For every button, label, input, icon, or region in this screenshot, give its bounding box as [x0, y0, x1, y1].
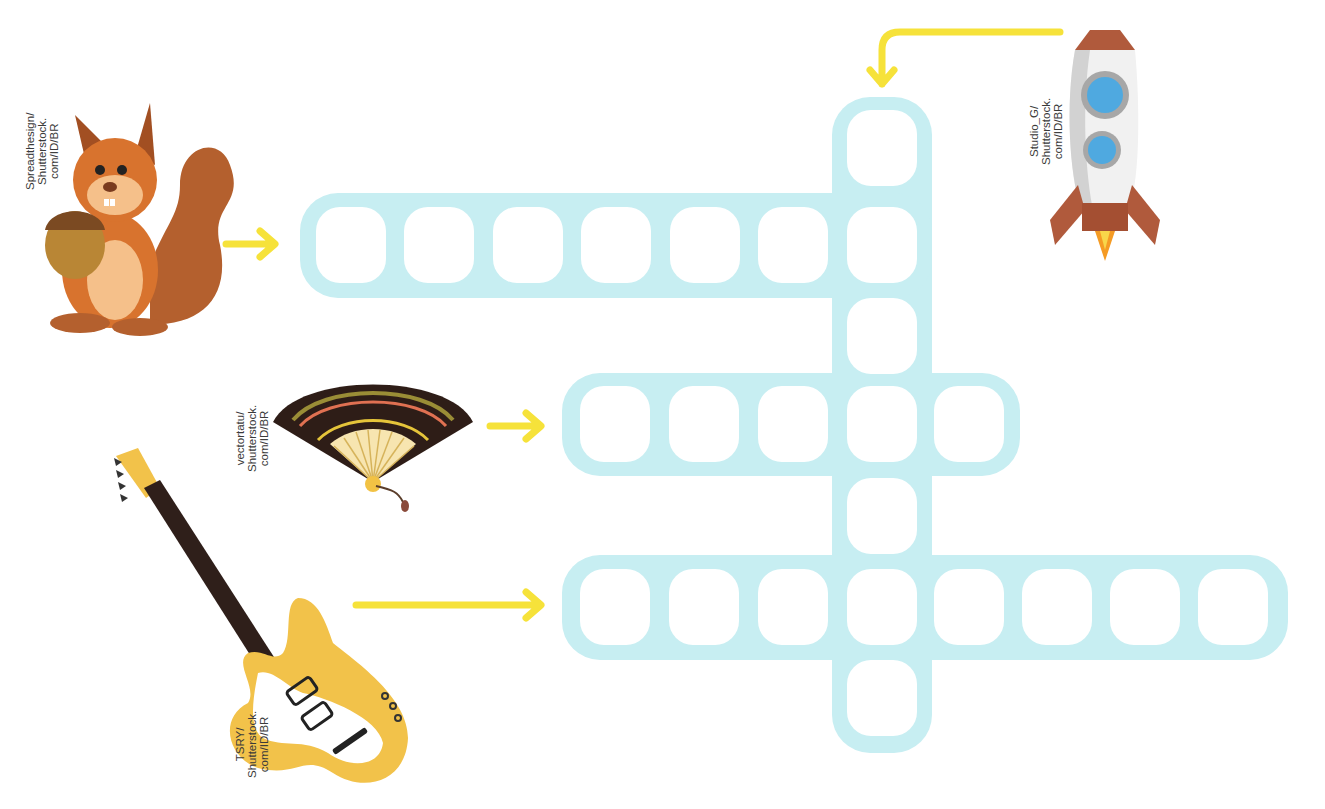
electric-guitar-icon [108, 448, 438, 808]
squirrel-icon [30, 95, 240, 340]
credit-rocket: Studio_G/ Shutterstock. com/ID/BR [1028, 98, 1064, 165]
cell-down-6[interactable] [847, 569, 917, 645]
cell-row1-4[interactable] [581, 207, 651, 283]
cell-row1-6[interactable] [758, 207, 828, 283]
credit-guitar: TSRY/ Shutterstock. com/ID/BR [234, 711, 270, 778]
cell-down-7[interactable] [847, 660, 917, 736]
cell-down-5[interactable] [847, 478, 917, 554]
cell-row1-1[interactable] [316, 207, 386, 283]
cell-row3-8[interactable] [1198, 569, 1268, 645]
cell-row2-3[interactable] [758, 386, 828, 462]
cell-down-3[interactable] [847, 298, 917, 374]
cell-down-1[interactable] [847, 110, 917, 186]
cell-row3-1[interactable] [580, 569, 650, 645]
cell-row3-7[interactable] [1110, 569, 1180, 645]
cell-row1-2[interactable] [404, 207, 474, 283]
cell-row2-1[interactable] [580, 386, 650, 462]
cell-row3-3[interactable] [758, 569, 828, 645]
arrow-right-icon [486, 408, 548, 444]
cell-row1-3[interactable] [493, 207, 563, 283]
cell-row2-2[interactable] [669, 386, 739, 462]
cell-down-2[interactable] [847, 207, 917, 283]
cell-row1-5[interactable] [670, 207, 740, 283]
cell-row3-2[interactable] [669, 569, 739, 645]
cell-row3-5[interactable] [934, 569, 1004, 645]
credit-squirrel: Spreadthesign/ Shutterstock. com/ID/BR [24, 113, 60, 190]
cell-row3-6[interactable] [1022, 569, 1092, 645]
cell-row2-5[interactable] [934, 386, 1004, 462]
arrow-curved-down-icon [860, 20, 1066, 92]
cell-down-4[interactable] [847, 386, 917, 462]
